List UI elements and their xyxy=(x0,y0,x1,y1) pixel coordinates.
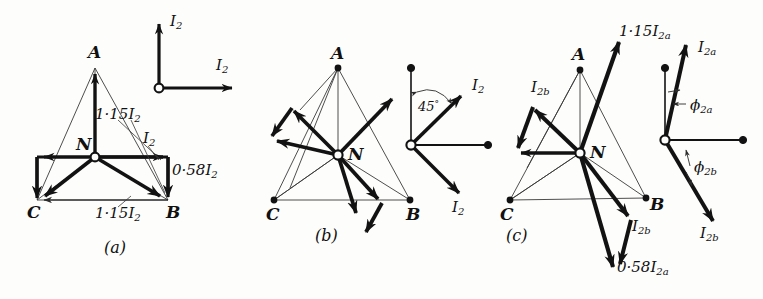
panel-c-label-1p15-sub: 2a xyxy=(658,30,670,41)
panel-a-key-label-horizontal-I2: I2 xyxy=(216,58,228,75)
node-dot-B xyxy=(643,195,650,202)
key-right-dot xyxy=(739,136,746,143)
panel-c-current-phasors xyxy=(518,42,631,267)
panel-a-key-horizontal-sub: 2 xyxy=(222,64,228,75)
panel-b-node-label-N: N xyxy=(348,146,364,163)
key-vector-I2a xyxy=(665,45,686,140)
panel-a-node-label-N: N xyxy=(76,136,92,153)
phasor-lower-right-bend xyxy=(366,203,382,232)
panel-c-label-0p58-I2a: 0·58I2a xyxy=(617,260,669,277)
panel-c-key-diagram xyxy=(660,45,746,221)
panel-b-node-label-C: C xyxy=(266,206,280,223)
panel-c-key-label-I2a: I2a xyxy=(698,40,716,57)
panel-b-key-label-upper-I2: I2 xyxy=(472,78,484,95)
key-origin-dot xyxy=(660,135,669,144)
phasor-upper-left-bend xyxy=(518,107,533,148)
panel-c-phi2b-symbol: ϕ xyxy=(694,158,704,176)
panel-a-label-1p15-I2: 1·15I2 xyxy=(95,107,141,124)
phasor-N-to-B xyxy=(95,157,160,196)
key-origin-dot xyxy=(406,140,415,149)
panel-b-angle-unit: ° xyxy=(435,99,440,109)
line-C-N-dup xyxy=(510,153,580,200)
panel-b-node-label-A: A xyxy=(331,45,344,62)
line-C-N-dup xyxy=(274,155,338,200)
phasor-N-upper-right xyxy=(338,99,392,155)
phasor-N-to-C xyxy=(45,157,95,196)
angle-arc-phi2b xyxy=(686,150,690,166)
panel-c-label-upper-I2b: I2b xyxy=(531,80,550,97)
phasor-N-to-0p58-I2a xyxy=(580,153,613,267)
line-A-C xyxy=(274,68,338,200)
panel-c-key-I2b-sub: 2b xyxy=(706,232,719,243)
key-top-dot xyxy=(661,64,668,71)
panel-a-label-0p58-I2: 0·58I2 xyxy=(172,163,218,180)
line-A-extra2 xyxy=(300,68,338,110)
panel-c-key-label-I2b: I2b xyxy=(700,226,719,243)
key-origin-dot xyxy=(155,84,164,93)
panel-b-node-label-B: B xyxy=(406,206,420,223)
node-dot-B xyxy=(407,197,414,204)
panel-c-phi2a-sub: 2a xyxy=(700,104,712,115)
panel-c-phi2a-symbol: ϕ xyxy=(690,96,700,114)
panel-a-label-bottom-base: 1·15 xyxy=(95,204,128,222)
panel-b-angle-label-45: 45° xyxy=(418,100,439,113)
panel-c-node-label-C: C xyxy=(500,206,514,223)
panel-c-angle-label-phi2a: ϕ2a xyxy=(690,98,713,115)
panel-a-key-label-vertical-I2: I2 xyxy=(170,14,182,31)
panel-b-key-label-lower-I2: I2 xyxy=(452,200,464,217)
key-top-dot xyxy=(407,64,414,71)
panel-b-thin-network xyxy=(274,68,410,200)
panel-c-label-lower-I2b: I2b xyxy=(632,219,651,236)
line-A-B xyxy=(580,70,646,198)
node-dot-N xyxy=(333,150,342,159)
node-dot-A xyxy=(335,65,342,72)
panel-b-angle-value: 45 xyxy=(418,99,435,114)
panel-c-label-1p15-I2a: 1·15I2a xyxy=(619,24,671,41)
node-dot-A xyxy=(577,67,584,74)
panel-a-caption: (a) xyxy=(104,240,126,256)
panel-c-phi2b-sub: 2b xyxy=(704,166,717,177)
panel-c-caption: (c) xyxy=(506,228,527,244)
panel-a-label-bottom-sub: 2 xyxy=(134,212,140,223)
panel-a-node-label-C: C xyxy=(27,204,41,221)
panel-a-key-vertical-sub: 2 xyxy=(176,20,182,31)
panel-a-label-I2-sub: 2 xyxy=(149,137,155,148)
panel-c-label-0p58-base: 0·58 xyxy=(617,258,650,276)
panel-a-label-0p58-I2-sub: 2 xyxy=(211,169,217,180)
panel-a-label-bottom-1p15-I2: 1·15I2 xyxy=(95,206,141,223)
line-A-B xyxy=(338,68,410,200)
panel-a-label-I2: I2 xyxy=(143,131,155,148)
panel-c-key-I2a-sub: 2a xyxy=(704,46,716,57)
panel-c-angle-label-phi2b: ϕ2b xyxy=(694,160,717,177)
panel-a-node-label-A: A xyxy=(88,44,101,61)
panel-c-label-upper-I2b-sub: 2b xyxy=(537,86,550,97)
node-dot-C xyxy=(507,197,514,204)
key-right-dot xyxy=(484,141,491,148)
panel-c-label-1p15-base: 1·15 xyxy=(619,22,652,40)
panel-b-caption: (b) xyxy=(315,228,338,244)
phasor-upper-left-bend xyxy=(272,108,292,136)
node-dot-C xyxy=(271,197,278,204)
panel-c-node-label-A: A xyxy=(572,46,585,63)
panel-c-label-0p58-sub: 2a xyxy=(656,266,668,277)
panel-c-node-label-B: B xyxy=(650,196,664,213)
node-dot-N xyxy=(575,148,584,157)
line-C-B xyxy=(510,198,646,200)
phasor-N-to-1p15-I2a xyxy=(580,42,619,153)
line-A-extra1 xyxy=(290,68,338,188)
panel-a-label-1p15-I2-sub: 2 xyxy=(134,113,140,124)
panel-b-key-lower-sub: 2 xyxy=(458,206,464,217)
key-vector-I2b xyxy=(665,140,713,221)
phasor-N-upper-left-I2b xyxy=(535,110,580,153)
panel-b-current-phasors xyxy=(272,99,392,232)
panel-a-label-1p15-I2-base: 1·15 xyxy=(95,105,128,123)
panel-a-label-0p58-I2-base: 0·58 xyxy=(172,161,205,179)
key-vector-lower-I2 xyxy=(411,145,459,193)
panel-c-node-label-N: N xyxy=(590,144,606,161)
panel-b-key-upper-sub: 2 xyxy=(478,84,484,95)
panel-c-label-lower-I2b-sub: 2b xyxy=(638,225,651,236)
panel-a-node-label-B: B xyxy=(166,204,180,221)
